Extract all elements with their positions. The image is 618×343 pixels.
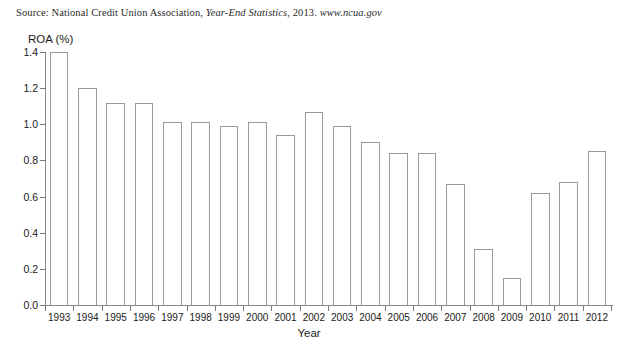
bar	[106, 103, 125, 305]
chart-figure: Source: National Credit Union Associatio…	[0, 0, 618, 343]
x-axis-tick	[328, 306, 329, 311]
x-axis-tick	[243, 306, 244, 311]
bar	[248, 122, 267, 305]
source-note-middle: , 2013.	[287, 7, 319, 18]
y-axis-tick-label: 1.4	[10, 52, 38, 53]
bar	[276, 135, 295, 305]
x-axis-tick-label: 2008	[470, 312, 498, 323]
bar	[50, 52, 69, 305]
x-axis-tick-label: 2000	[243, 312, 271, 323]
x-axis-tick-label: 2007	[441, 312, 469, 323]
y-axis-tick-label: 0.4	[10, 233, 38, 234]
x-axis-tick-label: 1998	[187, 312, 215, 323]
bar	[588, 151, 607, 305]
bar	[446, 184, 465, 305]
x-axis-tick-label: 1994	[73, 312, 101, 323]
x-axis-tick	[271, 306, 272, 311]
y-axis-title: ROA (%)	[28, 33, 73, 45]
x-axis-tick	[413, 306, 414, 311]
source-note-prefix: Source: National Credit Union Associatio…	[16, 7, 206, 18]
x-axis-tick	[356, 306, 357, 311]
x-axis-tick	[215, 306, 216, 311]
x-axis-tick-label: 1996	[130, 312, 158, 323]
x-axis-tick	[73, 306, 74, 311]
bar	[333, 126, 352, 305]
x-axis-tick-label: 2012	[583, 312, 611, 323]
bar	[220, 126, 239, 305]
x-axis-tick	[187, 306, 188, 311]
x-axis-tick	[554, 306, 555, 311]
y-axis-tick-label: 1.0	[10, 124, 38, 125]
y-axis-tick-label: 0.8	[10, 160, 38, 161]
x-axis-tick-label: 2010	[526, 312, 554, 323]
x-axis-tick-label: 2011	[554, 312, 582, 323]
x-axis-tick	[441, 306, 442, 311]
x-axis-tick	[611, 306, 612, 311]
x-axis-tick	[385, 306, 386, 311]
x-axis-tick-label: 1997	[158, 312, 186, 323]
bar	[418, 153, 437, 305]
y-axis-tick-label: 0.6	[10, 197, 38, 198]
x-axis-tick-label: 1999	[215, 312, 243, 323]
bar	[78, 88, 97, 305]
source-note: Source: National Credit Union Associatio…	[16, 7, 382, 18]
x-axis-tick-label: 2009	[498, 312, 526, 323]
bar	[389, 153, 408, 305]
bar	[135, 103, 154, 305]
x-axis-tick	[470, 306, 471, 311]
plot-area	[45, 52, 611, 305]
bar	[305, 112, 324, 305]
x-axis-tick	[45, 306, 46, 311]
x-axis-tick	[130, 306, 131, 311]
x-axis-tick	[158, 306, 159, 311]
x-axis-title: Year	[0, 327, 618, 339]
bar	[163, 122, 182, 305]
x-axis-tick	[102, 306, 103, 311]
source-note-url: www.ncua.gov	[320, 7, 382, 18]
x-axis-tick-label: 2002	[300, 312, 328, 323]
y-axis-tick-label: 0.2	[10, 269, 38, 270]
bar	[559, 182, 578, 305]
bar	[474, 249, 493, 305]
x-axis-tick	[498, 306, 499, 311]
x-axis-tick-label: 1993	[45, 312, 73, 323]
source-note-publication-title: Year-End Statistics	[206, 7, 288, 18]
x-axis-tick-label: 2006	[413, 312, 441, 323]
y-axis-tick-label: 0.0	[10, 305, 38, 306]
bar	[531, 193, 550, 305]
bar	[503, 278, 522, 305]
x-axis-tick	[583, 306, 584, 311]
x-axis-tick-label: 2003	[328, 312, 356, 323]
x-axis-tick	[300, 306, 301, 311]
y-axis-tick-label: 1.2	[10, 88, 38, 89]
x-axis-tick-label: 1995	[102, 312, 130, 323]
bar	[361, 142, 380, 305]
x-axis-tick-label: 2004	[356, 312, 384, 323]
x-axis-tick-label: 2005	[385, 312, 413, 323]
bar	[191, 122, 210, 305]
x-axis-tick	[526, 306, 527, 311]
x-axis-tick-label: 2001	[271, 312, 299, 323]
